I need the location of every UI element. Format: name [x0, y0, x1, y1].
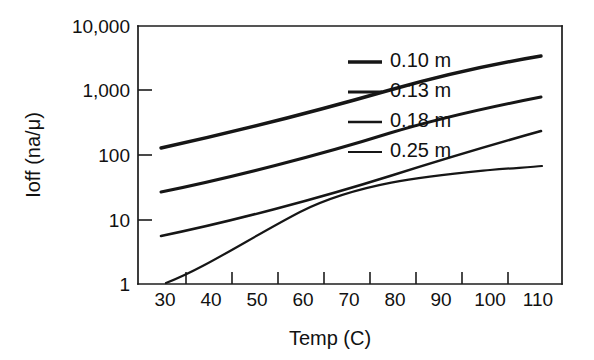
x-tick-label-60: 60 — [292, 289, 313, 310]
series-line-0-25m — [166, 166, 542, 283]
legend-label-0-25m: 0.25 m — [390, 139, 451, 161]
series-line-0-13m — [161, 97, 541, 192]
legend-label-0-18m: 0.18 m — [390, 109, 451, 131]
x-tick-label-110: 110 — [523, 289, 553, 310]
y-axis-tick-labels: 10,000 1,000 100 10 1 — [72, 16, 130, 295]
legend-entry-2[interactable]: 0.18 m — [348, 109, 451, 131]
x-tick-label-50: 50 — [246, 289, 267, 310]
y-axis-ticks — [138, 90, 152, 220]
legend-label-0-10m: 0.10 m — [390, 49, 451, 71]
y-tick-label-10000: 10,000 — [72, 16, 130, 37]
y-tick-label-1000: 1,000 — [82, 80, 130, 101]
x-tick-label-100: 100 — [474, 289, 506, 310]
x-tick-label-30: 30 — [154, 289, 175, 310]
y-tick-label-100: 100 — [98, 145, 130, 166]
y-tick-label-10: 10 — [109, 210, 130, 231]
series-line-0-18m — [161, 131, 541, 236]
series-paths — [161, 56, 542, 283]
x-tick-label-70: 70 — [338, 289, 359, 310]
x-tick-label-80: 80 — [384, 289, 405, 310]
series-line-0-10m — [161, 56, 541, 148]
x-axis-title: Temp (C) — [289, 327, 371, 349]
x-tick-label-90: 90 — [430, 289, 451, 310]
legend: 0.10 m 0.13 m 0.18 m 0.25 m — [348, 49, 451, 161]
chart-figure: 10,000 1,000 100 10 1 30 40 50 60 70 80 … — [0, 0, 594, 360]
y-tick-label-1: 1 — [119, 274, 130, 295]
line-chart: 10,000 1,000 100 10 1 30 40 50 60 70 80 … — [0, 0, 594, 360]
y-axis-title: Ioff (na/μ) — [22, 112, 44, 198]
legend-entry-0[interactable]: 0.10 m — [348, 49, 451, 71]
x-axis-tick-labels: 30 40 50 60 70 80 90 100 110 — [154, 289, 553, 310]
x-tick-label-40: 40 — [200, 289, 221, 310]
legend-label-0-13m: 0.13 m — [390, 79, 451, 101]
x-axis-ticks — [186, 272, 508, 284]
